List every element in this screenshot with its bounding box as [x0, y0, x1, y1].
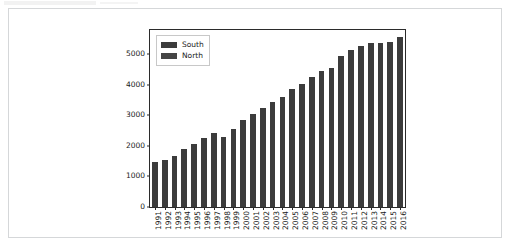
x-tick-mark [312, 207, 313, 210]
x-tick-mark [155, 207, 156, 210]
bar [260, 108, 266, 207]
bar-segment-south [378, 43, 384, 207]
x-tick-mark [351, 207, 352, 210]
x-tick-mark [273, 207, 274, 210]
bar [358, 46, 364, 207]
bar [309, 77, 315, 207]
legend-label: North [182, 52, 203, 60]
bar-segment-south [211, 133, 217, 207]
x-tick-mark [233, 207, 234, 210]
y-tick-label: 4000 [126, 81, 150, 89]
bar [338, 56, 344, 207]
bar-segment-south [240, 120, 246, 207]
x-tick-mark [214, 207, 215, 210]
screenshot-canvas: 010002000300040005000 199119921993199419… [0, 0, 511, 250]
bar-segment-south [338, 56, 344, 207]
bar [172, 156, 178, 207]
x-tick-label: 2010 [341, 211, 349, 230]
x-tick-label: 1992 [165, 211, 173, 230]
x-tick-label: 2016 [400, 211, 408, 230]
legend-swatch-north [161, 53, 177, 59]
bar-segment-south [299, 84, 305, 207]
bar-segment-south [181, 149, 187, 207]
chart-legend: SouthNorth [156, 35, 210, 66]
bar-segment-south [231, 129, 237, 207]
bar-segment-south [397, 37, 403, 207]
y-tick-label: 1000 [126, 173, 150, 181]
x-tick-mark [224, 207, 225, 210]
x-tick-mark [302, 207, 303, 210]
x-tick-mark [165, 207, 166, 210]
bar [319, 71, 325, 207]
x-tick-mark [194, 207, 195, 210]
y-tick-label: 2000 [126, 142, 150, 150]
legend-entry-north[interactable]: North [161, 51, 204, 61]
scan-artifact [4, 1, 96, 5]
x-tick-mark [282, 207, 283, 210]
bar-segment-south [387, 42, 393, 207]
x-tick-label: 2015 [390, 211, 398, 230]
x-tick-label: 1994 [184, 211, 192, 230]
x-tick-mark [322, 207, 323, 210]
bar-segment-south [191, 144, 197, 207]
x-tick-label: 2003 [273, 211, 281, 230]
x-tick-label: 2009 [331, 211, 339, 230]
bar [270, 102, 276, 207]
y-tick-label: 5000 [126, 51, 150, 59]
bar-segment-south [201, 138, 207, 207]
x-tick-label: 1996 [204, 211, 212, 230]
bar-segment-south [280, 97, 286, 207]
x-tick-mark [341, 207, 342, 210]
bar [348, 50, 354, 207]
x-tick-label: 2005 [292, 211, 300, 230]
legend-entry-south[interactable]: South [161, 40, 204, 50]
bar-segment-south [348, 50, 354, 207]
bar-segment-south [172, 156, 178, 207]
bar-segment-south [289, 89, 295, 207]
x-tick-mark [390, 207, 391, 210]
chart-axes: 010002000300040005000 199119921993199419… [149, 29, 406, 208]
x-tick-label: 1993 [175, 211, 183, 230]
x-tick-label: 2014 [380, 211, 388, 230]
bar [152, 162, 158, 207]
x-tick-mark [184, 207, 185, 210]
scan-artifact-secondary [100, 2, 138, 4]
bar [378, 43, 384, 207]
bar-segment-south [250, 114, 256, 207]
bar-segment-south [319, 71, 325, 207]
bar [191, 144, 197, 207]
y-tick-label: 0 [140, 203, 150, 211]
x-tick-mark [380, 207, 381, 210]
bar [299, 84, 305, 207]
bar [397, 37, 403, 207]
bar-segment-south [270, 102, 276, 207]
bar [329, 68, 335, 207]
x-tick-mark [175, 207, 176, 210]
figure-panel: 010002000300040005000 199119921993199419… [8, 8, 502, 238]
bar-segment-south [221, 137, 227, 207]
bar [221, 137, 227, 207]
x-tick-mark [400, 207, 401, 210]
bar [368, 43, 374, 207]
x-tick-label: 2000 [243, 211, 251, 230]
y-tick-label: 3000 [126, 112, 150, 120]
x-tick-label: 1991 [155, 211, 163, 230]
x-tick-mark [263, 207, 264, 210]
bar [201, 138, 207, 207]
x-tick-label: 2007 [312, 211, 320, 230]
x-tick-label: 1998 [224, 211, 232, 230]
x-tick-mark [204, 207, 205, 210]
x-tick-label: 1997 [214, 211, 222, 230]
x-tick-label: 2002 [263, 211, 271, 230]
bar [162, 160, 168, 207]
x-tick-label: 2011 [351, 211, 359, 230]
x-tick-label: 2012 [361, 211, 369, 230]
x-tick-mark [243, 207, 244, 210]
x-tick-label: 2013 [371, 211, 379, 230]
bar-segment-south [260, 108, 266, 207]
x-tick-label: 2006 [302, 211, 310, 230]
x-tick-label: 2004 [282, 211, 290, 230]
x-tick-label: 2001 [253, 211, 261, 230]
legend-label: South [182, 41, 204, 49]
x-tick-mark [371, 207, 372, 210]
